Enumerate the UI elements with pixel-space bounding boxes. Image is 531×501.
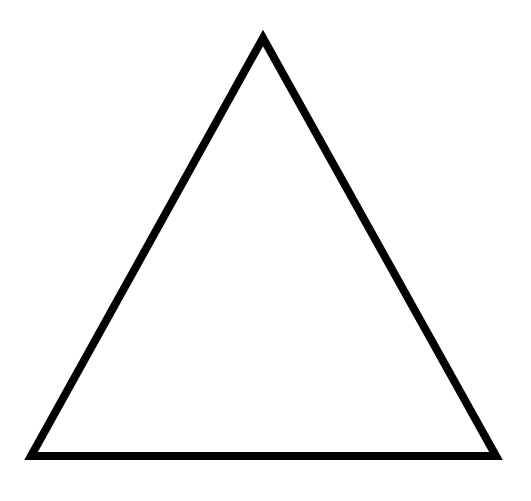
triangle-diagram xyxy=(0,0,531,501)
diagram-canvas xyxy=(0,0,531,501)
